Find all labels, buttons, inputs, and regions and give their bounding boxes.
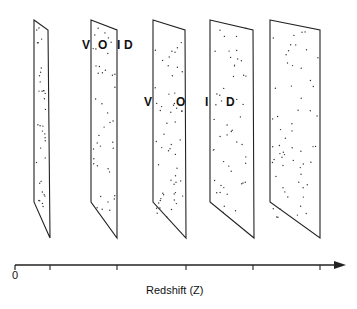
- galaxy-dot: [114, 87, 115, 88]
- galaxy-dot: [301, 32, 302, 33]
- galaxy-dot: [313, 86, 314, 87]
- galaxy-dot: [104, 32, 105, 33]
- galaxy-dot: [241, 144, 242, 145]
- galaxy-dot: [107, 201, 108, 202]
- galaxy-dot: [285, 54, 286, 55]
- galaxy-dot: [95, 98, 96, 99]
- galaxy-dot: [99, 66, 100, 67]
- galaxy-dot: [219, 30, 220, 31]
- galaxy-dot: [166, 123, 167, 124]
- galaxy-dot: [236, 36, 237, 37]
- galaxy-dot: [235, 210, 236, 211]
- axis-arrow-icon: [334, 261, 346, 269]
- galaxy-dot: [228, 165, 229, 166]
- galaxy-dot: [103, 126, 104, 127]
- galaxy-dot: [175, 182, 176, 183]
- galaxy-dot: [216, 192, 217, 193]
- galaxy-dot: [173, 105, 174, 106]
- redshift-axis: [15, 261, 346, 270]
- void-label-upper-0: V: [82, 38, 90, 52]
- galaxy-dot: [174, 92, 175, 93]
- galaxy-dot: [112, 142, 113, 143]
- galaxy-dot: [230, 57, 231, 58]
- galaxy-dot: [292, 147, 293, 148]
- galaxy-dot: [227, 194, 228, 195]
- galaxy-dot: [44, 137, 45, 138]
- galaxy-dot: [112, 75, 113, 76]
- galaxy-dot: [275, 88, 276, 89]
- galaxy-dot: [182, 195, 183, 196]
- galaxy-dot: [44, 98, 45, 99]
- galaxy-dot: [277, 116, 278, 117]
- galaxy-dot: [241, 183, 242, 184]
- galaxy-dot: [107, 112, 108, 113]
- galaxy-dot: [306, 213, 307, 214]
- galaxy-dot: [169, 148, 170, 149]
- galaxy-dot: [102, 72, 103, 73]
- slab-1: [34, 20, 50, 238]
- galaxy-dot: [290, 44, 291, 45]
- galaxy-dot: [175, 192, 176, 193]
- galaxy-dot: [42, 203, 43, 204]
- galaxy-dot: [114, 74, 115, 75]
- galaxy-dot: [109, 122, 110, 123]
- galaxy-dot: [272, 162, 273, 163]
- void-label-lower-3: D: [226, 95, 235, 109]
- galaxy-dot: [97, 142, 98, 143]
- void-label-lower-2: I: [205, 95, 208, 109]
- galaxy-dot: [95, 65, 96, 66]
- galaxy-dot: [38, 27, 39, 28]
- galaxy-dot: [102, 209, 103, 210]
- galaxy-dot: [293, 160, 294, 161]
- galaxy-dot: [241, 60, 242, 61]
- galaxy-dot: [40, 181, 41, 182]
- galaxy-dot: [215, 104, 216, 105]
- galaxy-dot: [97, 28, 98, 29]
- galaxy-dot: [100, 145, 101, 146]
- galaxy-dot: [38, 42, 39, 43]
- galaxy-dot: [301, 68, 302, 69]
- galaxy-dot: [174, 199, 175, 200]
- galaxy-dot: [222, 212, 223, 213]
- galaxy-dot: [93, 158, 94, 159]
- galaxy-dot: [173, 184, 174, 185]
- galaxy-dot: [40, 147, 41, 148]
- galaxy-dot: [160, 200, 161, 201]
- galaxy-dot: [161, 106, 162, 107]
- galaxy-dot: [285, 138, 286, 139]
- galaxy-dot: [162, 193, 163, 194]
- galaxy-dot: [213, 149, 214, 150]
- galaxy-dot: [158, 202, 159, 203]
- galaxy-dot: [105, 70, 106, 71]
- galaxy-dot: [45, 140, 46, 141]
- galaxy-dot: [181, 111, 182, 112]
- galaxy-dot: [300, 151, 301, 152]
- galaxy-dot: [287, 196, 288, 197]
- galaxy-dot: [219, 192, 220, 193]
- galaxy-dot: [312, 146, 313, 147]
- galaxy-dot: [300, 206, 301, 207]
- galaxy-dot: [93, 163, 94, 164]
- galaxy-dot: [288, 50, 289, 51]
- galaxy-dot: [163, 134, 164, 135]
- galaxy-dot: [181, 42, 182, 43]
- galaxy-dot: [45, 157, 46, 158]
- galaxy-dot: [97, 165, 98, 166]
- void-label-lower-0: V: [144, 95, 152, 109]
- galaxy-dot: [44, 194, 45, 195]
- galaxy-dot: [301, 98, 302, 99]
- galaxy-dot: [36, 162, 37, 163]
- slab-5: [270, 20, 320, 238]
- galaxy-dot: [213, 119, 214, 120]
- slab-4: [210, 20, 254, 238]
- galaxy-dot: [155, 50, 156, 51]
- galaxy-dot: [226, 134, 227, 135]
- galaxy-dot: [109, 171, 110, 172]
- galaxy-dot: [221, 100, 222, 101]
- galaxy-dot: [310, 80, 311, 81]
- galaxy-dot: [175, 154, 176, 155]
- galaxy-dot: [231, 171, 232, 172]
- galaxy-dot: [39, 125, 40, 126]
- galaxy-dot: [245, 182, 246, 183]
- galaxy-dot: [297, 214, 298, 215]
